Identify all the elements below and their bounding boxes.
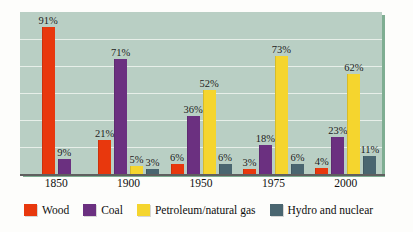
bar-value-label: 6% <box>218 152 232 163</box>
bar-value-label: 5% <box>130 154 144 165</box>
bar-group-2000: 4%23%62%11% <box>310 12 382 174</box>
bar-wrap: 11% <box>363 12 376 174</box>
chart-legend: WoodCoalPetroleum/natural gasHydro and n… <box>24 200 396 220</box>
bar-wrap: 52% <box>203 12 216 174</box>
bar-value-label: 91% <box>39 15 58 26</box>
x-tick-label-1850: 1850 <box>20 177 92 189</box>
x-axis-tick-labels: 18501900195019752000 <box>20 177 382 189</box>
bar-group-1950: 6%36%52%6% <box>165 12 237 174</box>
bar-wrap: 3% <box>146 12 159 174</box>
bar-value-label: 9% <box>57 147 71 158</box>
bar-wrap: 6% <box>171 12 184 174</box>
bar-value-label: 52% <box>199 78 218 89</box>
legend-label: Petroleum/natural gas <box>155 204 256 216</box>
x-tick-label-1975: 1975 <box>237 177 309 189</box>
bar-coal-1975[interactable] <box>259 145 272 174</box>
bar-wrap: 4% <box>315 12 328 174</box>
bar-hydro-and-nuclear-2000[interactable] <box>363 156 376 174</box>
bar-wood-1850[interactable] <box>42 27 55 174</box>
bar-coal-2000[interactable] <box>331 137 344 174</box>
bar-petroleum-natural-gas-2000[interactable] <box>347 74 360 174</box>
bar-groups: 91%9%21%71%5%3%6%36%52%6%3%18%73%6%4%23%… <box>20 12 382 174</box>
bar-value-label: 23% <box>328 125 347 136</box>
bar-value-label: 6% <box>170 152 184 163</box>
legend-swatch-icon <box>83 204 96 216</box>
legend-item-hydro-and-nuclear[interactable]: Hydro and nuclear <box>270 204 374 216</box>
bar-value-label: 3% <box>242 157 256 168</box>
bar-wrap: 9% <box>58 12 71 174</box>
bar-wrap: 71% <box>114 12 127 174</box>
bar-wood-2000[interactable] <box>315 168 328 174</box>
bar-wood-1975[interactable] <box>243 169 256 174</box>
bar-wood-1950[interactable] <box>171 164 184 174</box>
bar-hydro-and-nuclear-1950[interactable] <box>219 164 232 174</box>
bar-value-label: 18% <box>256 133 275 144</box>
bar-wrap: 18% <box>259 12 272 174</box>
bar-value-label: 6% <box>290 152 304 163</box>
bar-petroleum-natural-gas-1900[interactable] <box>130 166 143 174</box>
bar-value-label: 4% <box>315 156 329 167</box>
bar-value-label: 62% <box>344 62 363 73</box>
legend-label: Hydro and nuclear <box>288 204 374 216</box>
bar-wrap: 5% <box>130 12 143 174</box>
bar-value-label: 73% <box>272 44 291 55</box>
legend-label: Coal <box>101 204 123 216</box>
legend-label: Wood <box>42 204 69 216</box>
bar-coal-1900[interactable] <box>114 59 127 174</box>
x-tick-label-1950: 1950 <box>165 177 237 189</box>
bar-wrap: 36% <box>187 12 200 174</box>
bar-hydro-and-nuclear-1900[interactable] <box>146 169 159 174</box>
bar-value-label: 36% <box>183 104 202 115</box>
x-axis-line <box>20 174 385 176</box>
bar-wrap: 91% <box>42 12 55 174</box>
bar-value-label: 11% <box>360 144 379 155</box>
bar-wrap: 6% <box>291 12 304 174</box>
bar-group-1975: 3%18%73%6% <box>237 12 309 174</box>
x-tick-label-1900: 1900 <box>92 177 164 189</box>
legend-swatch-icon <box>270 204 283 216</box>
bar-value-label: 71% <box>111 47 130 58</box>
bar-wrap: 6% <box>219 12 232 174</box>
x-tick-label-2000: 2000 <box>310 177 382 189</box>
legend-item-petroleum-natural-gas[interactable]: Petroleum/natural gas <box>137 204 256 216</box>
bar-wood-1900[interactable] <box>98 140 111 174</box>
bar-wrap: 23% <box>331 12 344 174</box>
legend-swatch-icon <box>24 204 37 216</box>
bar-group-1900: 21%71%5%3% <box>92 12 164 174</box>
bar-wrap: 62% <box>347 12 360 174</box>
bar-group-1850: 91%9% <box>20 12 92 174</box>
legend-swatch-icon <box>137 204 150 216</box>
bar-petroleum-natural-gas-1950[interactable] <box>203 90 216 174</box>
bar-coal-1950[interactable] <box>187 116 200 174</box>
chart-root: 91%9%21%71%5%3%6%36%52%6%3%18%73%6%4%23%… <box>0 0 413 232</box>
bar-value-label: 3% <box>146 157 160 168</box>
bar-coal-1850[interactable] <box>58 159 71 174</box>
legend-item-wood[interactable]: Wood <box>24 204 69 216</box>
bar-hydro-and-nuclear-1975[interactable] <box>291 164 304 174</box>
bar-wrap: 3% <box>243 12 256 174</box>
legend-item-coal[interactable]: Coal <box>83 204 123 216</box>
bar-value-label: 21% <box>95 128 114 139</box>
bar-petroleum-natural-gas-1975[interactable] <box>275 56 288 174</box>
bar-wrap: 21% <box>98 12 111 174</box>
bar-wrap: 73% <box>275 12 288 174</box>
